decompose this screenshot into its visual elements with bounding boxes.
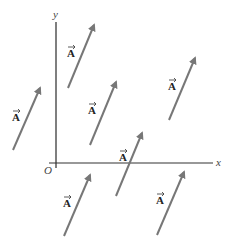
vector-a: A (88, 82, 116, 145)
vector-label: A (67, 47, 75, 59)
vector-label: A (156, 194, 164, 206)
vector-a: A (156, 172, 184, 235)
vector-label: A (88, 104, 96, 116)
vectors-group: AAAAAAA (12, 25, 195, 236)
vector-diagram: y x O AAAAAAA (0, 0, 231, 248)
vector-label: A (168, 80, 176, 92)
y-axis-label: y (52, 8, 58, 20)
vector-arrow-icon (116, 133, 142, 196)
vector-label: A (63, 197, 71, 209)
vector-a: A (67, 25, 94, 88)
vector-a: A (12, 88, 40, 150)
vector-label: A (119, 151, 127, 163)
vector-a: A (116, 133, 142, 196)
vector-label: A (12, 111, 20, 123)
origin-label: O (44, 164, 52, 176)
vector-a: A (168, 58, 195, 120)
x-axis-label: x (215, 156, 221, 168)
vector-a: A (63, 175, 90, 236)
